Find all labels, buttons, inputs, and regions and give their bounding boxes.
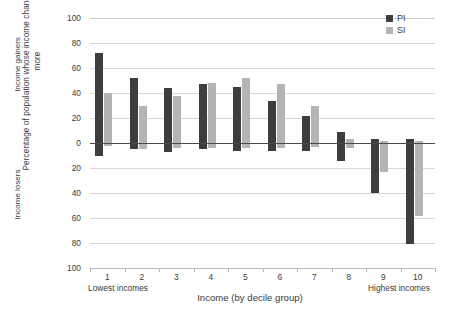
bar-si-gainers-6 bbox=[277, 84, 285, 143]
y-tick-label: 20 bbox=[55, 163, 81, 173]
legend-swatch-icon bbox=[386, 27, 393, 34]
legend: PISI bbox=[386, 13, 406, 37]
bar-si-gainers-3 bbox=[173, 96, 181, 144]
x-tick-label-decile-7: 7 bbox=[302, 272, 326, 282]
y-axis-title: Percentage of population whose income ch… bbox=[21, 0, 43, 181]
bar-pi-gainers-6 bbox=[268, 101, 276, 144]
y-tick-label: 80 bbox=[55, 38, 81, 48]
bar-si-gainers-4 bbox=[208, 83, 216, 143]
bar-pi-gainers-3 bbox=[164, 88, 172, 143]
x-tick-label-decile-2: 2 bbox=[130, 272, 154, 282]
legend-label: PI bbox=[397, 13, 406, 23]
x-tick-label-decile-4: 4 bbox=[199, 272, 223, 282]
bar-pi-losers-3 bbox=[164, 143, 172, 152]
x-axis-title: Income (by decile group) bbox=[90, 292, 410, 303]
x-tick-label-decile-6: 6 bbox=[268, 272, 292, 282]
legend-item-pi: PI bbox=[386, 13, 406, 23]
x-tick-label-decile-9: 9 bbox=[371, 272, 395, 282]
plot-area bbox=[90, 18, 435, 268]
y-tick-label: 100 bbox=[55, 13, 81, 23]
y-tick-label: 60 bbox=[55, 213, 81, 223]
y-tick-label: 60 bbox=[55, 63, 81, 73]
bar-si-gainers-1 bbox=[104, 93, 112, 143]
x-tick-label-decile-1: 1 bbox=[95, 272, 119, 282]
y-tick-label: 40 bbox=[55, 88, 81, 98]
x-tick-label-decile-5: 5 bbox=[233, 272, 257, 282]
bar-si-losers-9 bbox=[380, 143, 388, 172]
bar-pi-gainers-5 bbox=[233, 87, 241, 143]
y-axis-tick-labels: 10080604020020406080100 bbox=[56, 18, 84, 268]
bar-pi-losers-10 bbox=[406, 143, 414, 244]
y-tick-label: 0 bbox=[55, 138, 81, 148]
x-tick-mark bbox=[435, 268, 436, 272]
legend-item-si: SI bbox=[386, 25, 406, 35]
bar-pi-losers-9 bbox=[371, 143, 379, 193]
bar-pi-gainers-2 bbox=[130, 78, 138, 143]
bar-si-gainers-7 bbox=[311, 106, 319, 144]
y-axis-upper-label-income-gainers: Income gainers bbox=[13, 20, 22, 110]
legend-swatch-icon bbox=[386, 15, 393, 22]
legend-label: SI bbox=[397, 25, 406, 35]
y-tick-label: 80 bbox=[55, 238, 81, 248]
x-tick-label-decile-8: 8 bbox=[337, 272, 361, 282]
bar-si-losers-10 bbox=[415, 143, 423, 216]
zero-line bbox=[90, 143, 435, 144]
x-tick-label-decile-10: 10 bbox=[406, 272, 430, 282]
bar-pi-losers-1 bbox=[95, 143, 103, 156]
bar-si-gainers-2 bbox=[139, 106, 147, 144]
bar-pi-gainers-4 bbox=[199, 84, 207, 143]
bar-pi-gainers-8 bbox=[337, 132, 345, 143]
x-axis-line bbox=[90, 268, 435, 269]
x-tick-label-decile-3: 3 bbox=[164, 272, 188, 282]
bar-pi-losers-8 bbox=[337, 143, 345, 161]
y-tick-label: 20 bbox=[55, 113, 81, 123]
bar-pi-gainers-7 bbox=[302, 116, 310, 144]
y-tick-label: 100 bbox=[55, 263, 81, 273]
bar-pi-gainers-1 bbox=[95, 53, 103, 143]
y-axis-lower-label-income-losers: Income losers bbox=[13, 150, 22, 240]
bar-si-gainers-5 bbox=[242, 78, 250, 143]
y-tick-label: 40 bbox=[55, 188, 81, 198]
